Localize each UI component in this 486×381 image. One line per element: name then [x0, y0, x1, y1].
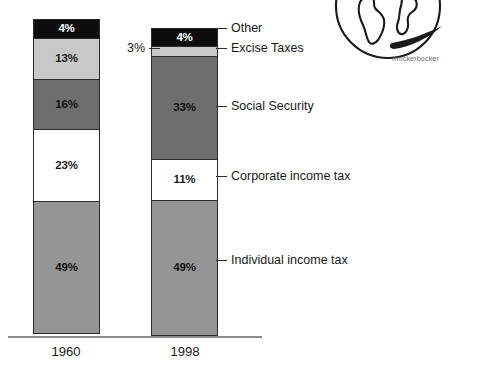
- leader-line: [216, 48, 227, 49]
- callout-other: Other: [216, 21, 262, 35]
- callout-individual-income-tax: Individual income tax: [216, 253, 348, 267]
- x-axis-baseline: [8, 336, 262, 338]
- callout-excise-taxes: Excise Taxes: [216, 41, 304, 55]
- logo-caption: Knickerbocker: [392, 55, 439, 62]
- segment-individual-income-tax-1960[interactable]: 49%: [33, 201, 100, 334]
- segment-corporate-income-tax-1998[interactable]: 11%: [151, 159, 218, 201]
- leader-line: [216, 106, 227, 107]
- segment-excise-1960[interactable]: 13%: [33, 38, 100, 80]
- leader-line: [149, 48, 160, 49]
- segment-value-label: 33%: [173, 102, 195, 114]
- callout-label: Excise Taxes: [227, 41, 304, 55]
- segment-value-label: 49%: [173, 262, 195, 274]
- segment-value-label: 11%: [174, 174, 196, 186]
- segment-other-1960[interactable]: 4%: [33, 19, 100, 39]
- bar-column-1960: 4% 13% 16% 23% 49%: [33, 19, 100, 337]
- segment-value-label: 23%: [55, 160, 77, 172]
- callout-social-security: Social Security: [216, 99, 314, 113]
- callout-label: Corporate income tax: [227, 169, 351, 183]
- segment-social-security-1960[interactable]: 16%: [33, 79, 100, 130]
- stacked-bar-chart: 4% 13% 16% 23% 49% 4% 3% 33% 11% 49%: [0, 0, 486, 381]
- x-axis-tick-1960: 1960: [26, 344, 106, 359]
- segment-value-label: 4%: [58, 23, 74, 35]
- leader-line: [216, 260, 227, 261]
- bar-column-1998: 4% 3% 33% 11% 49%: [151, 28, 218, 337]
- x-axis-tick-1998: 1998: [145, 344, 225, 359]
- callout-label: Other: [227, 21, 262, 35]
- segment-value-label: 4%: [176, 32, 192, 44]
- segment-corporate-income-tax-1960[interactable]: 23%: [33, 129, 100, 202]
- segment-individual-income-tax-1998[interactable]: 49%: [151, 200, 218, 336]
- segment-value-label: 16%: [55, 99, 77, 111]
- callout-label: Social Security: [227, 99, 314, 113]
- leader-line: [216, 176, 227, 177]
- callout-corporate-income-tax: Corporate income tax: [216, 169, 351, 183]
- segment-social-security-1998[interactable]: 33%: [151, 56, 218, 160]
- callout-excise-1998-value: 3%: [127, 41, 160, 55]
- segment-value-label: 49%: [55, 262, 77, 274]
- segment-value-label: 13%: [55, 53, 77, 65]
- callout-value-label: 3%: [127, 41, 149, 55]
- callout-label: Individual income tax: [227, 253, 348, 267]
- leader-line: [216, 28, 227, 29]
- segment-other-1998[interactable]: 4%: [151, 28, 218, 47]
